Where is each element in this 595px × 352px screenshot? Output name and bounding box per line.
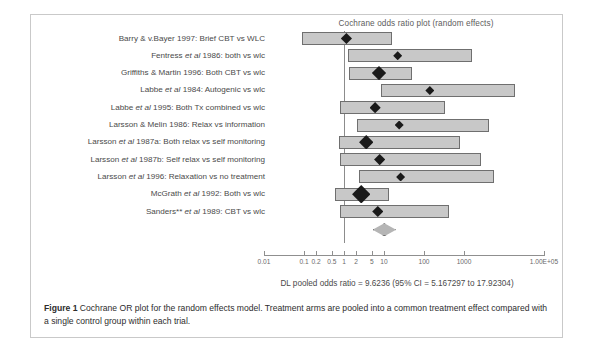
study-label: Larsson et al 1987b: Self relax vs self … [0, 155, 265, 165]
figure-frame: Cochrane odds ratio plot (random effects… [30, 14, 563, 338]
axis-tick [372, 251, 373, 256]
axis-tick [332, 251, 333, 256]
axis-tick [384, 251, 385, 256]
axis-tick [464, 251, 465, 256]
axis-tick [304, 251, 305, 256]
study-label-et-al: et al [136, 103, 151, 112]
study-label-et-al: et al [185, 207, 200, 216]
axis-tick [264, 251, 265, 256]
figure-caption-text: Cochrane OR plot for the random effects … [44, 303, 547, 326]
study-label: Labbe et al 1984: Autogenic vs wlc [0, 85, 265, 95]
axis-line [264, 255, 544, 256]
confidence-interval-bar [340, 153, 480, 166]
axis-tick-label: 0.5 [327, 258, 336, 265]
confidence-interval-bar [340, 205, 450, 218]
study-label: Labbe et al 1995: Both Tx combined vs wl… [0, 103, 265, 113]
forest-plot: Barry & v.Bayer 1997: Brief CBT vs WLCFe… [31, 15, 564, 339]
confidence-interval-bar [381, 84, 515, 97]
axis-tick-label: 2 [354, 258, 358, 265]
study-label: Larsson & Melin 1986: Relax vs informati… [0, 120, 265, 130]
plot-canvas [264, 31, 544, 251]
figure-caption-label: Figure 1 [44, 303, 77, 313]
axis-tick-label: 1000 [457, 258, 472, 265]
study-label-et-al: et al [165, 85, 180, 94]
confidence-interval-bar [348, 49, 472, 62]
study-label: Fentress et al 1986: both vs wlc [0, 51, 265, 61]
study-label-et-al: et al [185, 51, 200, 60]
axis-tick-label: 0.2 [311, 258, 320, 265]
axis-tick [424, 251, 425, 256]
pooled-summary-text: DL pooled odds ratio = 9.6236 (95% CI = … [227, 279, 567, 288]
axis-tick [544, 251, 545, 256]
confidence-interval-bar [339, 136, 460, 149]
study-label-et-al: et al [184, 189, 199, 198]
study-label-et-al: et al [121, 155, 136, 164]
confidence-interval-bar [359, 170, 493, 183]
figure-caption: Figure 1 Cochrane OR plot for the random… [44, 302, 549, 327]
axis-tick-label: 10 [380, 258, 387, 265]
study-label: Barry & v.Bayer 1997: Brief CBT vs WLC [0, 34, 265, 44]
axis-tick [316, 251, 317, 256]
study-label: Larsson et al 1987a: Both relax vs self … [0, 137, 265, 147]
study-label: McGrath et al 1992: Both vs wlc [0, 189, 265, 199]
study-label-et-al: et al [129, 172, 144, 181]
study-label-et-al: et al [119, 137, 134, 146]
axis-tick-label: 100 [418, 258, 429, 265]
axis-tick-label: 5 [370, 258, 374, 265]
study-label: Griffiths & Martin 1996: Both CBT vs wlc [0, 68, 265, 78]
pooled-effect-diamond [373, 223, 397, 236]
axis-tick [356, 251, 357, 256]
axis-tick-label: 0.1 [299, 258, 308, 265]
confidence-interval-bar [357, 119, 489, 132]
axis-tick-label: 1.00E+05 [530, 258, 558, 265]
axis-tick-label: 0.01 [258, 258, 271, 265]
study-label: Sanders** et al 1989: CBT vs wlc [0, 207, 265, 217]
axis-tick-label: 1 [342, 258, 346, 265]
axis-tick [344, 251, 345, 256]
confidence-interval-bar [340, 101, 445, 114]
study-label: Larsson et al 1996: Relaxation vs no tre… [0, 172, 265, 182]
